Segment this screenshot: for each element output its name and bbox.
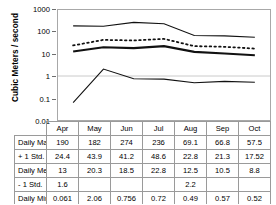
table-cell: 10.5 [207, 164, 239, 178]
table-cell: 2.06 [79, 192, 111, 205]
table-row: + 1 Std.24.443.941.248.622.821.317.52 [15, 150, 271, 164]
table-cell: 0.52 [239, 192, 271, 205]
y-tick-label: 1 [46, 72, 50, 81]
column-header-sep: Sep [207, 122, 239, 136]
table-cell: 1.6 [47, 178, 79, 192]
y-tick-mark [52, 99, 56, 100]
chart-with-data-table: Cubic Meters / second 10001001010.10.01 … [0, 0, 276, 204]
table-cell: 274 [111, 136, 143, 150]
table-cell: 190 [47, 136, 79, 150]
table-cell: 182 [79, 136, 111, 150]
table-cell: 22.8 [175, 150, 207, 164]
series-line [73, 22, 255, 37]
column-header-may: May [79, 122, 111, 136]
column-header-aug: Aug [175, 122, 207, 136]
table-cell: 48.6 [143, 150, 175, 164]
table-cell: 20.3 [79, 164, 111, 178]
table-cell: 13 [47, 164, 79, 178]
y-tick-mark [52, 54, 56, 55]
row-label: - 1 Std. [15, 178, 47, 192]
series-line [73, 69, 255, 103]
table-cell: 0.57 [207, 192, 239, 205]
table-header-row: AprMayJunJulAugSepOct [15, 122, 271, 136]
table-cell: 43.9 [79, 150, 111, 164]
table-cell: 0.72 [143, 192, 175, 205]
table-row: Daily Mean1320.318.522.812.510.58.8 [15, 164, 271, 178]
data-table: AprMayJunJulAugSepOctDaily Max1901822742… [14, 121, 271, 204]
row-label: Daily Max [15, 136, 47, 150]
plot-frame [57, 9, 271, 121]
y-tick-mark [52, 9, 56, 10]
table-cell: 8.8 [239, 164, 271, 178]
y-tick-label: 0.1 [39, 94, 50, 103]
table-cell [239, 178, 271, 192]
column-header-apr: Apr [47, 122, 79, 136]
column-header-jul: Jul [143, 122, 175, 136]
table-cell [143, 178, 175, 192]
row-label: Daily Min. [15, 192, 47, 205]
row-label: Daily Mean [15, 164, 47, 178]
table-cell [111, 178, 143, 192]
table-cell: 57.5 [239, 136, 271, 150]
y-tick-mark [52, 31, 56, 32]
table-cell: 0.756 [111, 192, 143, 205]
column-header-oct: Oct [239, 122, 271, 136]
table-row: - 1 Std.1.62.2 [15, 178, 271, 192]
table-cell: 0.061 [47, 192, 79, 205]
table-cell: 18.5 [111, 164, 143, 178]
table-cell: 24.4 [47, 150, 79, 164]
table-cell: 17.52 [239, 150, 271, 164]
table-row: Daily Max19018227423669.166.857.5 [15, 136, 271, 150]
table-cell [207, 178, 239, 192]
y-axis-tick-labels: 10001001010.10.01 [0, 0, 54, 121]
row-label: + 1 Std. [15, 150, 47, 164]
table-cell: 41.2 [111, 150, 143, 164]
table-cell [79, 178, 111, 192]
table-row: Daily Min.0.0612.060.7560.720.490.570.52 [15, 192, 271, 205]
table-cell: 236 [143, 136, 175, 150]
table-corner-cell [15, 122, 47, 136]
y-tick-mark [52, 76, 56, 77]
y-tick-label: 1000 [33, 5, 50, 14]
series-line [73, 46, 255, 55]
y-tick-label: 10 [42, 49, 50, 58]
series-group [73, 22, 255, 102]
chart-plot-area [57, 9, 271, 121]
table-cell: 22.8 [143, 164, 175, 178]
column-header-jun: Jun [111, 122, 143, 136]
table-cell: 69.1 [175, 136, 207, 150]
table-cell: 12.5 [175, 164, 207, 178]
y-tick-label: 100 [37, 27, 50, 36]
series-canvas [58, 10, 270, 120]
table-cell: 21.3 [207, 150, 239, 164]
table-cell: 2.2 [175, 178, 207, 192]
table-cell: 66.8 [207, 136, 239, 150]
table-cell: 0.49 [175, 192, 207, 205]
